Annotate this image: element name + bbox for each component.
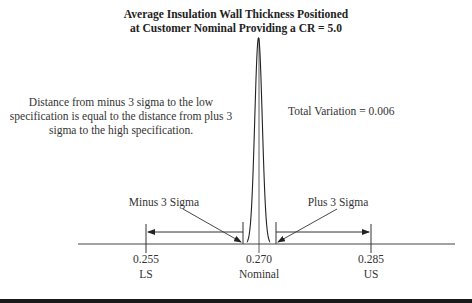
upper-spec-value: 0.285	[358, 253, 384, 265]
distribution-diagram	[0, 0, 472, 303]
nominal-value: 0.270	[246, 253, 272, 265]
minus-sigma-pointer-arrow	[183, 209, 241, 242]
bottom-rule	[0, 299, 472, 303]
plus-sigma-pointer-arrow	[278, 209, 337, 242]
lower-spec-label: LS	[139, 268, 152, 280]
nominal-label: Nominal	[239, 268, 279, 280]
lower-spec-value: 0.255	[133, 253, 159, 265]
upper-spec-label: US	[364, 268, 379, 280]
normal-distribution-curve	[247, 38, 270, 242]
